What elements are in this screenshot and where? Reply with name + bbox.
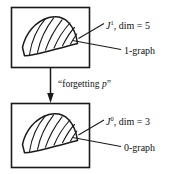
bottom-jet-label: J0, dim = 3 [106,117,150,127]
top-jet-label: J1, dim = 5 [106,21,150,31]
forgetting-arrow-head [47,93,54,103]
top-graph-label: 1-graph [124,46,155,56]
forgetting-arrow-label: “forgetting p” [58,80,111,90]
bottom-jet-leader-line [79,120,105,135]
close-quote: ” [107,79,111,89]
top-jet-leader-line [79,24,105,39]
bottom-jet-dim: , dim = 3 [114,116,150,127]
figure-root: J1, dim = 5 1-graph “forgetting p” J0, d… [0,0,174,174]
forgetting-text: forgetting [62,79,102,89]
bottom-graph-leader-line [73,138,122,147]
top-graph-leader-line [73,41,122,50]
top-jet-dim: , dim = 5 [114,20,150,31]
bottom-graph-label: 0-graph [124,143,155,153]
